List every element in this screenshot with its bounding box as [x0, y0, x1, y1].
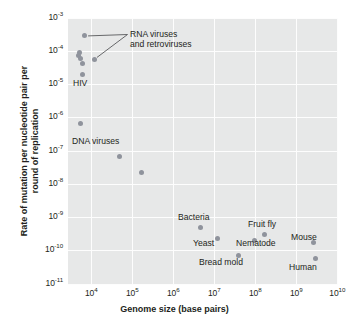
data-point-bacteria — [198, 225, 203, 230]
annotation-human: Human — [289, 262, 317, 272]
annotation-mouse: Mouse — [291, 232, 317, 242]
annotation-yeast: Yeast — [193, 238, 214, 248]
annotation-rna-viruses-line1: RNA viruses — [130, 29, 177, 39]
annotation-rna-viruses-line2: and retroviruses — [130, 39, 192, 49]
annotation-fruit-fly: Fruit fly — [248, 219, 276, 229]
data-point-rna-virus-4 — [78, 56, 83, 61]
data-point-dna-virus-1 — [78, 121, 83, 126]
data-point-dna-virus-2 — [117, 154, 122, 159]
annotation-nematode: Nematode — [236, 238, 276, 248]
annotation-rna-viruses: RNA virusesand retroviruses — [130, 29, 192, 49]
annotation-hiv: HIV — [73, 78, 87, 88]
data-point-rna-virus-5 — [92, 57, 97, 62]
mutation-rate-genome-size-chart: 10-310-410-510-610-710-810-910-1010-1110… — [0, 0, 349, 321]
data-point-hiv — [80, 72, 85, 77]
annotation-dna-viruses: DNA viruses — [72, 136, 119, 146]
annotation-bread-mold: Bread mold — [199, 257, 243, 267]
annotation-bacteria: Bacteria — [178, 212, 210, 222]
